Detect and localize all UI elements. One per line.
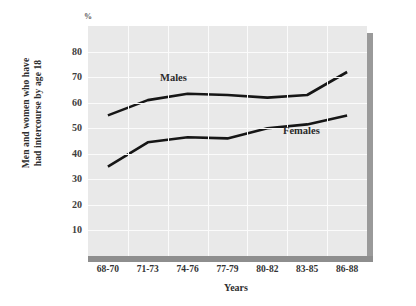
- y-axis-tick-80: 80: [56, 47, 82, 57]
- gridline-vertical: [208, 26, 209, 256]
- y-axis-tick-10: 10: [56, 225, 82, 235]
- y-axis-tick-70: 70: [56, 72, 82, 82]
- y-axis-tick-30: 30: [56, 174, 82, 184]
- series-line-females: [108, 115, 347, 166]
- gridline-vertical: [247, 26, 248, 256]
- plot-right-shadow: [367, 33, 373, 256]
- plot-bottom-shadow: [88, 256, 373, 262]
- y-axis-title-line-2: had intercourse by age 18: [33, 60, 45, 166]
- gridline-horizontal: [88, 77, 367, 78]
- series-line-males: [108, 72, 347, 115]
- gridline-horizontal: [88, 52, 367, 53]
- gridline-vertical: [128, 26, 129, 256]
- x-axis-tick-86-88: 86-88: [323, 264, 371, 274]
- gridline-horizontal: [88, 103, 367, 104]
- chart-figure: Men and women who have had intercourse b…: [0, 0, 416, 306]
- plot-area-shell: [88, 26, 367, 256]
- y-axis-tick-60: 60: [56, 98, 82, 108]
- percent-unit-marker: %: [84, 12, 92, 21]
- gridline-horizontal: [88, 154, 367, 155]
- y-axis-tick-50: 50: [56, 123, 82, 133]
- y-axis-title: Men and women who have had intercourse b…: [16, 18, 50, 208]
- gridline-horizontal: [88, 230, 367, 231]
- series-label-females: Females: [283, 125, 320, 136]
- y-axis-tick-40: 40: [56, 149, 82, 159]
- gridline-vertical: [168, 26, 169, 256]
- x-axis-title: Years: [0, 282, 416, 293]
- gridline-horizontal: [88, 128, 367, 129]
- series-lines: [88, 26, 367, 256]
- y-axis-title-line-1: Men and women who have: [21, 58, 33, 168]
- gridline-vertical: [287, 26, 288, 256]
- gridline-horizontal: [88, 205, 367, 206]
- gridline-vertical: [327, 26, 328, 256]
- plot-area: [88, 26, 367, 256]
- gridline-horizontal: [88, 179, 367, 180]
- y-axis-tick-20: 20: [56, 200, 82, 210]
- series-label-males: Males: [160, 72, 187, 83]
